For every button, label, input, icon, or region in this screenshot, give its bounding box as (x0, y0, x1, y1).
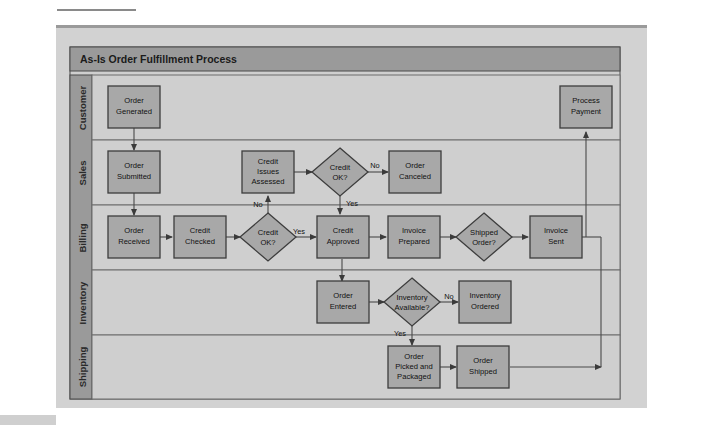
node-order-canceled-line2: Canceled (399, 172, 431, 181)
page-canvas: As-Is Order Fulfillment Process Customer… (0, 0, 705, 426)
node-credit-checked[interactable]: Credit Checked (174, 216, 226, 258)
node-order-entered-line1: Order (333, 291, 353, 300)
node-inventory-available-line2: Available? (395, 303, 430, 312)
node-invoice-sent-line1: Invoice (544, 226, 568, 235)
node-inventory-ordered-line2: Ordered (471, 302, 499, 311)
edge-label-creditok-billing-no: No (253, 200, 262, 209)
node-order-generated[interactable]: Order Generated (108, 86, 160, 128)
node-process-payment-line2: Payment (571, 107, 602, 116)
node-credit-checked-line1: Credit (190, 226, 211, 235)
node-invoice-prepared[interactable]: Invoice Prepared (388, 216, 440, 258)
node-invoice-sent-line2: Sent (548, 237, 565, 246)
diagram-title-bar: As-Is Order Fulfillment Process (70, 47, 620, 71)
node-inventory-ordered-line1: Inventory (469, 291, 500, 300)
node-order-received-line1: Order (124, 226, 144, 235)
edge-label-available-no: No (444, 292, 453, 301)
node-credit-issues-line2: Issues (257, 167, 279, 176)
node-shipped-order-line2: Order? (472, 238, 496, 247)
node-credit-issues-assessed[interactable]: Credit Issues Assessed (242, 151, 294, 193)
lane-label-sales: Sales (77, 161, 88, 186)
edge-label-creditok-sales-yes: Yes (346, 199, 358, 208)
node-order-received[interactable]: Order Received (108, 216, 160, 258)
node-order-submitted-line2: Submitted (117, 172, 151, 181)
node-order-picked-line2: Picked and (395, 362, 433, 371)
edge-label-available-yes: Yes (394, 329, 406, 338)
node-credit-ok-billing-line1: Credit (258, 228, 279, 237)
flowchart-svg: As-Is Order Fulfillment Process Customer… (0, 0, 705, 426)
node-credit-issues-line1: Credit (258, 157, 279, 166)
node-credit-approved-line2: Approved (327, 237, 360, 246)
node-shipped-order-line1: Shipped (470, 228, 498, 237)
node-order-entered-line2: Entered (330, 302, 357, 311)
node-credit-ok-sales-line1: Credit (330, 163, 351, 172)
lane-label-shipping: Shipping (77, 346, 88, 387)
lane-label-customer: Customer (77, 86, 88, 131)
swimlane-diagram: As-Is Order Fulfillment Process Customer… (0, 0, 705, 426)
node-invoice-sent[interactable]: Invoice Sent (530, 216, 582, 258)
node-inventory-available-line1: Inventory (396, 293, 427, 302)
lane-label-inventory: Inventory (77, 281, 88, 324)
node-order-picked-line1: Order (404, 352, 424, 361)
node-process-payment-line1: Process (572, 96, 600, 105)
node-order-picked-packaged[interactable]: Order Picked and Packaged (388, 346, 440, 388)
node-inventory-ordered[interactable]: Inventory Ordered (459, 281, 511, 323)
node-order-submitted[interactable]: Order Submitted (108, 151, 160, 193)
node-credit-ok-sales-line2: OK? (332, 173, 347, 182)
node-order-shipped-line1: Order (473, 356, 493, 365)
node-credit-issues-line3: Assessed (252, 177, 285, 186)
node-order-submitted-line1: Order (124, 161, 144, 170)
node-order-canceled-line1: Order (405, 161, 425, 170)
node-order-received-line2: Received (118, 237, 150, 246)
node-order-canceled[interactable]: Order Canceled (389, 151, 441, 193)
edge-label-creditok-billing-yes: Yes (293, 227, 305, 236)
node-credit-approved[interactable]: Credit Approved (317, 216, 369, 258)
node-invoice-prepared-line2: Prepared (398, 237, 429, 246)
lane-label-billing: Billing (77, 223, 88, 252)
edge-label-creditok-sales-no: No (370, 161, 379, 170)
node-credit-ok-billing-line2: OK? (260, 238, 275, 247)
node-order-shipped[interactable]: Order Shipped (457, 346, 509, 388)
node-order-generated-line1: Order (124, 96, 144, 105)
node-credit-checked-line2: Checked (185, 237, 215, 246)
node-credit-approved-line1: Credit (333, 226, 354, 235)
node-order-picked-line3: Packaged (397, 372, 431, 381)
node-order-entered[interactable]: Order Entered (317, 281, 369, 323)
node-process-payment[interactable]: Process Payment (560, 86, 612, 128)
node-order-shipped-line2: Shipped (469, 367, 497, 376)
node-order-generated-line2: Generated (116, 107, 152, 116)
node-invoice-prepared-line1: Invoice (402, 226, 426, 235)
diagram-title: As-Is Order Fulfillment Process (80, 53, 237, 65)
